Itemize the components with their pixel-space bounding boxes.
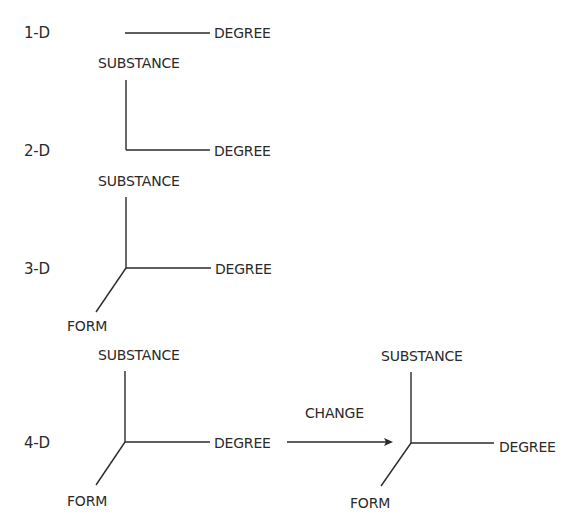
axis-form-3d [96,268,126,312]
label-substance-1d: SUBSTANCE [98,55,180,71]
label-substance-2d: SUBSTANCE [98,173,180,189]
label-degree-1d: DEGREE [214,25,271,41]
axis-form-changed [381,443,411,486]
label-form-3d: FORM [67,318,107,334]
dimension-label-3d: 3-D [24,261,50,277]
dimension-label-2d: 2-D [24,143,50,159]
label-degree-changed: DEGREE [499,439,556,455]
label-change: CHANGE [305,405,364,421]
label-substance-changed: SUBSTANCE [381,348,463,364]
label-form-changed: FORM [350,495,390,511]
dimension-label-1d: 1-D [24,25,50,41]
label-degree-3d: DEGREE [215,261,272,277]
label-substance-3d: SUBSTANCE [98,347,180,363]
dimension-label-4d: 4-D [24,435,50,451]
label-form-4d: FORM [67,493,107,509]
label-degree-4d: DEGREE [214,435,271,451]
axis-form-4d [96,442,125,485]
label-degree-2d: DEGREE [214,143,271,159]
